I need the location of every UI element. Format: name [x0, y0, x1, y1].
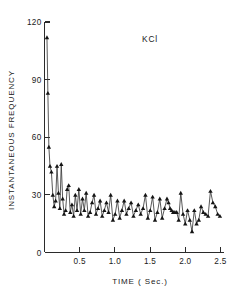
data-point-marker — [117, 216, 121, 220]
y-axis: 0306090120 — [27, 18, 50, 258]
data-markers-instantaneous-frequency — [45, 35, 222, 233]
y-tick-label-0: 0 — [37, 249, 42, 258]
data-point-marker — [188, 218, 192, 222]
data-point-marker — [73, 193, 77, 197]
data-point-marker — [67, 183, 71, 187]
data-point-marker — [122, 199, 126, 203]
x-axis-title: TIME ( Sec.) — [112, 277, 168, 286]
figure-container: 0306090120 0.51.01.52.02.5 KCl TIME ( Se… — [0, 0, 238, 296]
y-tick-label-60: 60 — [32, 133, 42, 142]
data-point-marker — [98, 199, 102, 203]
data-point-marker — [51, 193, 55, 197]
x-tick-label-2.0: 2.0 — [179, 257, 191, 266]
data-point-marker — [190, 229, 194, 233]
data-point-marker — [96, 206, 100, 210]
data-point-marker — [183, 222, 187, 226]
series-annotation-kcl: KCl — [142, 34, 158, 44]
data-point-marker — [75, 208, 79, 212]
data-point-marker — [213, 204, 217, 208]
data-point-marker — [80, 197, 84, 201]
data-point-marker — [141, 206, 145, 210]
data-series-group — [45, 35, 222, 233]
data-point-marker — [165, 197, 169, 201]
data-point-marker — [146, 216, 150, 220]
data-point-marker — [45, 35, 49, 39]
data-point-marker — [82, 208, 86, 212]
y-axis-title: INSTANTANEOUS FREQUENCY — [7, 70, 16, 210]
x-tick-label-2.5: 2.5 — [214, 257, 226, 266]
data-point-marker — [176, 218, 180, 222]
x-axis-ticks — [80, 247, 221, 253]
data-point-marker — [185, 208, 189, 212]
data-point-marker — [126, 206, 130, 210]
data-point-marker — [46, 91, 50, 95]
data-point-marker — [115, 199, 119, 203]
data-point-marker — [181, 212, 185, 216]
data-point-marker — [52, 204, 56, 208]
data-point-marker — [48, 164, 52, 168]
data-point-marker — [62, 212, 66, 216]
data-point-marker — [111, 218, 115, 222]
data-point-marker — [136, 202, 140, 206]
y-tick-label-30: 30 — [32, 191, 42, 200]
data-point-marker — [197, 218, 201, 222]
x-axis: 0.51.01.52.02.5 — [45, 247, 227, 266]
data-point-marker — [134, 208, 138, 212]
data-point-marker — [86, 214, 90, 218]
data-point-marker — [70, 202, 74, 206]
data-point-marker — [158, 197, 162, 201]
data-point-marker — [49, 170, 53, 174]
data-point-marker — [59, 162, 63, 166]
data-point-marker — [211, 200, 215, 204]
data-point-marker — [71, 214, 75, 218]
y-tick-label-90: 90 — [32, 76, 42, 85]
x-tick-label-1.0: 1.0 — [109, 257, 121, 266]
data-point-marker — [138, 212, 142, 216]
data-point-marker — [88, 210, 92, 214]
data-point-marker — [166, 200, 170, 204]
data-point-marker — [129, 200, 133, 204]
data-point-marker — [124, 212, 128, 216]
data-point-marker — [92, 193, 96, 197]
data-point-marker — [162, 206, 166, 210]
data-point-marker — [53, 199, 57, 203]
data-point-marker — [131, 214, 135, 218]
data-point-marker — [148, 208, 152, 212]
y-tick-label-120: 120 — [27, 18, 42, 27]
data-point-marker — [155, 210, 159, 214]
x-axis-tick-labels: 0.51.01.52.02.5 — [74, 257, 227, 266]
data-point-marker — [201, 210, 205, 214]
x-tick-label-1.5: 1.5 — [144, 257, 156, 266]
data-point-marker — [113, 212, 117, 216]
data-point-marker — [94, 212, 98, 216]
data-point-marker — [47, 145, 51, 149]
data-point-marker — [68, 210, 72, 214]
data-point-marker — [60, 197, 64, 201]
y-axis-tick-labels: 0306090120 — [27, 18, 42, 258]
data-point-marker — [58, 206, 62, 210]
x-tick-label-0.5: 0.5 — [74, 257, 86, 266]
data-point-marker — [120, 208, 124, 212]
data-point-marker — [55, 164, 59, 168]
data-point-marker — [194, 222, 198, 226]
data-point-marker — [143, 193, 147, 197]
data-point-marker — [104, 200, 108, 204]
data-point-marker — [106, 210, 110, 214]
data-point-marker — [77, 187, 81, 191]
data-point-marker — [199, 204, 203, 208]
data-point-marker — [153, 218, 157, 222]
data-point-marker — [84, 191, 88, 195]
data-point-marker — [102, 208, 106, 212]
data-point-marker — [90, 200, 94, 204]
data-point-marker — [108, 193, 112, 197]
data-point-marker — [100, 214, 104, 218]
data-point-marker — [160, 216, 164, 220]
data-point-marker — [150, 195, 154, 199]
instantaneous-frequency-chart: 0306090120 0.51.01.52.02.5 KCl TIME ( Se… — [0, 0, 238, 296]
data-point-marker — [179, 191, 183, 195]
data-point-marker — [208, 189, 212, 193]
data-point-marker — [78, 212, 82, 216]
data-line-instantaneous-frequency — [47, 37, 220, 231]
data-point-marker — [192, 208, 196, 212]
